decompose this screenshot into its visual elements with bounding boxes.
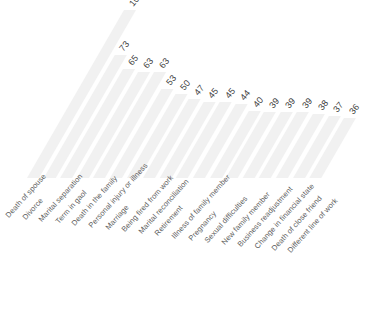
plot-area: 1007365636353504745454440393939383736 — [0, 0, 378, 180]
bar-chart: 1007365636353504745454440393939383736 De… — [0, 0, 378, 311]
bar-value-label: 50 — [178, 78, 192, 92]
bar-value-label: 73 — [117, 39, 131, 53]
bar-value-label: 63 — [141, 56, 155, 70]
bar-value-label: 45 — [206, 87, 220, 101]
bar-value-label: 37 — [331, 100, 345, 114]
bar-value-label: 38 — [316, 98, 330, 112]
bar-value-label: 53 — [164, 73, 178, 87]
bar-value-label: 39 — [267, 97, 281, 111]
bar-value-label: 44 — [239, 88, 253, 102]
bar-value-label: 63 — [157, 56, 171, 70]
bar-value-label: 39 — [300, 97, 314, 111]
bar-value-label: 100 — [127, 0, 144, 8]
bar-value-label: 47 — [192, 83, 206, 97]
bar-value-label: 65 — [126, 53, 140, 67]
bar-value-label: 40 — [251, 95, 265, 109]
bar-value-label: 45 — [223, 87, 237, 101]
bar-value-label: 39 — [284, 97, 298, 111]
category-axis: Death of spouseDivorceMarital separation… — [0, 182, 378, 311]
bar-value-label: 36 — [347, 102, 361, 116]
